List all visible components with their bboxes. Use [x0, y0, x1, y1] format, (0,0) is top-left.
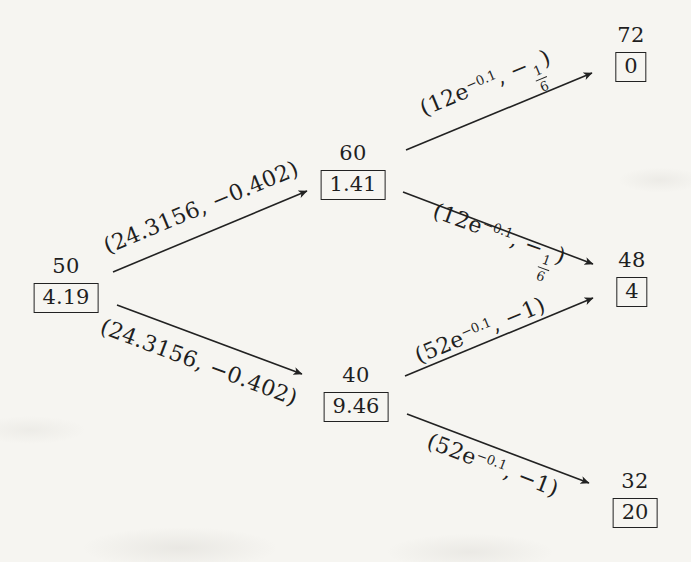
node-value-box: 9.46 [324, 392, 389, 422]
node-price: 72 [617, 24, 645, 47]
tree-edges [0, 0, 691, 562]
node-down-40: 40 9.46 [324, 364, 389, 422]
node-downdown-32: 32 20 [613, 470, 658, 528]
node-root-50: 50 4.19 [34, 255, 99, 313]
node-price: 32 [621, 470, 649, 493]
node-price: 48 [618, 249, 646, 272]
node-value-box: 20 [613, 498, 658, 528]
node-up-60: 60 1.41 [321, 142, 386, 200]
fraction-denominator: 6 [533, 267, 550, 285]
node-value-box: 1.41 [321, 170, 386, 200]
node-price: 40 [342, 364, 370, 387]
figure-canvas: 50 4.19 60 1.41 40 9.46 72 0 48 4 32 20 … [0, 0, 691, 562]
node-price: 60 [339, 142, 367, 165]
node-value-box: 0 [615, 52, 646, 82]
node-value-box: 4.19 [34, 283, 99, 313]
node-value-box: 4 [616, 277, 647, 307]
node-upup-72: 72 0 [615, 24, 646, 82]
node-middle-48: 48 4 [616, 249, 647, 307]
node-price: 50 [52, 255, 80, 278]
